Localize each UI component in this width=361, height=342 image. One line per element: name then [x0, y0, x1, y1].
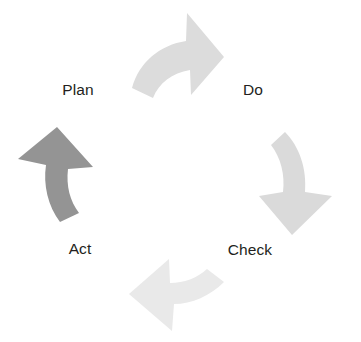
- arrow-act-to-plan-icon: [18, 127, 93, 222]
- stage-label-act: Act: [69, 241, 92, 257]
- pdca-cycle-diagram: Plan Do Check Act: [0, 0, 361, 342]
- stage-label-check: Check: [228, 242, 272, 258]
- arrow-check-to-act-icon: [129, 259, 224, 331]
- stage-label-do: Do: [243, 82, 263, 98]
- stage-label-plan: Plan: [62, 82, 93, 98]
- cycle-arrows-graphic: [0, 0, 361, 342]
- arrow-do-to-check-icon: [259, 132, 332, 235]
- arrow-plan-to-do-icon: [132, 13, 224, 98]
